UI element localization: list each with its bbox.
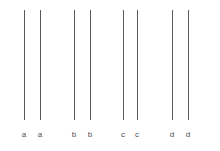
x-tick-label-d-7: d — [181, 130, 195, 139]
x-tick-label-b-3: b — [83, 130, 97, 139]
vertical-line-a-1 — [40, 10, 41, 120]
x-tick-label-a-1: a — [33, 130, 47, 139]
vertical-line-b-3 — [90, 10, 91, 120]
vertical-line-c-4 — [123, 10, 124, 120]
vertical-line-c-5 — [137, 10, 138, 120]
vertical-line-a-0 — [24, 10, 25, 120]
plot-area: aabbccdd — [0, 0, 220, 151]
vertical-line-d-7 — [188, 10, 189, 120]
x-tick-label-c-5: c — [130, 130, 144, 139]
x-tick-label-a-0: a — [17, 130, 31, 139]
x-tick-label-b-2: b — [67, 130, 81, 139]
chart-container: aabbccdd — [0, 0, 220, 151]
x-tick-label-d-6: d — [165, 130, 179, 139]
vertical-line-d-6 — [172, 10, 173, 120]
vertical-line-b-2 — [74, 10, 75, 120]
x-tick-label-c-4: c — [116, 130, 130, 139]
